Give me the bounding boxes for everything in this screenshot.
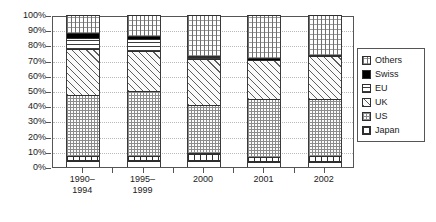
stacked-bar-chart: 0%10%20%30%40%50%60%70%80%90%100% 1990–1… bbox=[0, 0, 436, 222]
bar-segment-us bbox=[188, 105, 220, 154]
y-tick-mark bbox=[46, 107, 51, 108]
bar-segment-uk bbox=[188, 59, 220, 106]
x-tick-mark bbox=[143, 168, 144, 173]
bar-column bbox=[127, 15, 161, 167]
bar-segment-us bbox=[248, 99, 280, 158]
y-tick-mark bbox=[46, 77, 51, 78]
bar-segment-us bbox=[67, 95, 99, 157]
x-tick-mark-minor bbox=[233, 168, 234, 173]
legend-label: Swiss bbox=[375, 70, 399, 79]
legend-item-uk[interactable]: UK bbox=[362, 95, 421, 109]
x-tick-mark bbox=[82, 168, 83, 173]
bar-segment-others bbox=[248, 15, 280, 59]
y-tick-label: 30% bbox=[0, 117, 46, 126]
bar-column bbox=[308, 15, 342, 167]
legend-item-japan[interactable]: Japan bbox=[362, 123, 421, 137]
bar-segment-us bbox=[309, 99, 341, 157]
x-tick-mark bbox=[263, 168, 264, 173]
y-tick-mark bbox=[46, 31, 51, 32]
bar-segment-others bbox=[67, 15, 99, 34]
legend-label: Others bbox=[375, 56, 402, 65]
legend-swatch-others-icon bbox=[362, 56, 371, 65]
legend-swatch-japan-icon bbox=[362, 126, 371, 135]
bar-segment-uk bbox=[309, 56, 341, 100]
y-tick-label: 40% bbox=[0, 102, 46, 111]
x-tick-mark bbox=[203, 168, 204, 173]
bar-column bbox=[187, 15, 221, 167]
legend-swatch-swiss-icon bbox=[362, 70, 371, 79]
legend-label: UK bbox=[375, 98, 388, 107]
y-tick-mark bbox=[46, 138, 51, 139]
y-tick-label: 10% bbox=[0, 148, 46, 157]
x-tick-mark bbox=[324, 168, 325, 173]
legend-swatch-us-icon bbox=[362, 112, 371, 121]
y-tick-label: 20% bbox=[0, 133, 46, 142]
bar-segment-us bbox=[128, 91, 160, 157]
x-tick-mark-minor bbox=[173, 168, 174, 173]
bar-segment-others bbox=[188, 15, 220, 57]
bar-segment-japan bbox=[188, 153, 220, 162]
legend-swatch-uk-icon bbox=[362, 98, 371, 107]
y-tick-label: 70% bbox=[0, 57, 46, 66]
y-tick-mark bbox=[46, 92, 51, 93]
legend-item-us[interactable]: US bbox=[362, 109, 421, 123]
legend-item-eu[interactable]: EU bbox=[362, 81, 421, 95]
y-tick-label: 90% bbox=[0, 26, 46, 35]
y-tick-label: 100% bbox=[0, 11, 46, 20]
y-tick-mark bbox=[46, 46, 51, 47]
bar-segment-japan bbox=[67, 156, 99, 162]
y-tick-mark bbox=[46, 168, 51, 169]
bar-segment-japan bbox=[128, 156, 160, 162]
chart-legend: OthersSwissEUUKUSJapan bbox=[357, 48, 425, 142]
legend-label: US bbox=[375, 112, 388, 121]
legend-swatch-eu-icon bbox=[362, 84, 371, 93]
bar-segment-others bbox=[128, 15, 160, 37]
x-tick-mark-minor bbox=[294, 168, 295, 173]
bar-segment-japan bbox=[309, 156, 341, 163]
bar-segment-uk bbox=[248, 60, 280, 100]
y-tick-label: 60% bbox=[0, 72, 46, 81]
y-tick-mark bbox=[46, 153, 51, 154]
legend-label: EU bbox=[375, 84, 388, 93]
y-tick-label: 0% bbox=[0, 163, 46, 172]
y-tick-label: 50% bbox=[0, 87, 46, 96]
legend-item-swiss[interactable]: Swiss bbox=[362, 67, 421, 81]
bar-column bbox=[247, 15, 281, 167]
bar-segment-others bbox=[309, 15, 341, 56]
y-tick-label: 80% bbox=[0, 41, 46, 50]
legend-label: Japan bbox=[375, 126, 400, 135]
y-tick-mark bbox=[46, 62, 51, 63]
x-tick-label: 2002 bbox=[287, 174, 361, 185]
x-tick-mark-minor bbox=[112, 168, 113, 173]
plot-area bbox=[52, 16, 354, 168]
bar-segment-uk bbox=[128, 51, 160, 92]
bar-segment-japan bbox=[248, 157, 280, 163]
y-tick-mark bbox=[46, 16, 51, 17]
legend-item-others[interactable]: Others bbox=[362, 53, 421, 67]
bar-segment-uk bbox=[67, 49, 99, 96]
y-tick-mark bbox=[46, 122, 51, 123]
bar-column bbox=[66, 15, 100, 167]
